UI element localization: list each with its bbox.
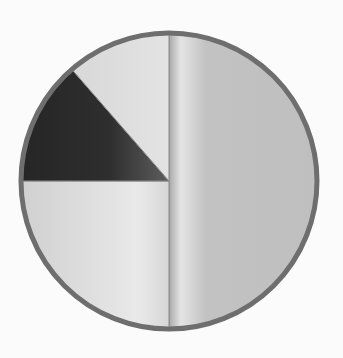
- pie-chart: [0, 0, 343, 358]
- pie-slice: [169, 33, 317, 329]
